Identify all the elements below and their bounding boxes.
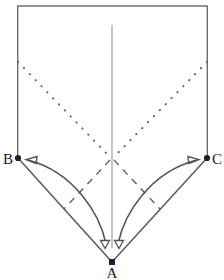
arrowhead-right [188, 157, 199, 164]
arrowhead-left [26, 157, 37, 164]
down-arrow-right-head [115, 241, 124, 249]
dotted-line-c-to-center [114, 62, 207, 157]
down-arrow-left [101, 241, 110, 249]
vertex-dot-c [204, 155, 210, 161]
geometry-figure: B C A [0, 0, 224, 280]
dotted-line-b-to-center [18, 62, 110, 157]
curved-arrow-to-c-path [118, 160, 197, 244]
label-vertex-c: C [212, 151, 222, 167]
label-vertex-b: B [3, 151, 13, 167]
down-arrow-right [115, 241, 124, 249]
diagram-canvas: B C A [0, 0, 224, 280]
down-arrow-left-head [101, 241, 110, 249]
curved-arrow-to-b [26, 157, 106, 245]
label-vertex-a: A [107, 265, 118, 280]
vertex-dot-b [15, 155, 21, 161]
curved-arrow-to-c [118, 157, 199, 245]
curved-arrow-to-b-path [28, 160, 106, 244]
